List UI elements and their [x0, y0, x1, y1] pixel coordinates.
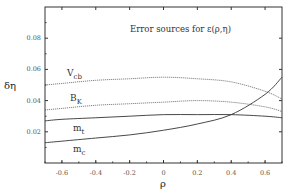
x-tick-label: -0.6 [56, 169, 69, 177]
series-label-vcb: Vcb [66, 68, 82, 81]
chart: -0.6-0.4-0.200.20.40.60.020.040.060.08 E… [0, 0, 288, 195]
series-label-bk: BK [70, 93, 83, 106]
y-tick-label: 0.06 [27, 65, 41, 73]
x-tick-label: 0.4 [226, 169, 236, 177]
x-tick-label: -0.4 [90, 169, 103, 177]
y-tick-label: 0.02 [27, 128, 41, 136]
x-tick-label: -0.2 [123, 169, 136, 177]
chart-title: Error sources for ε(ρ,η) [130, 24, 231, 34]
curve-mt [45, 115, 282, 121]
x-tick-label: 0.6 [260, 169, 270, 177]
y-tick-label: 0.08 [27, 34, 41, 42]
series-label-mc: mc [73, 144, 86, 157]
x-tick-label: 0.2 [192, 169, 202, 177]
series-labels: Vcb BK mt mc [66, 68, 86, 157]
y-tick-label: 0.04 [27, 97, 41, 105]
series-label-mt: mt [73, 123, 85, 136]
x-tick-label: 0 [161, 169, 165, 177]
x-axis-label: ρ [160, 178, 166, 189]
y-axis-label: δη [4, 80, 16, 91]
